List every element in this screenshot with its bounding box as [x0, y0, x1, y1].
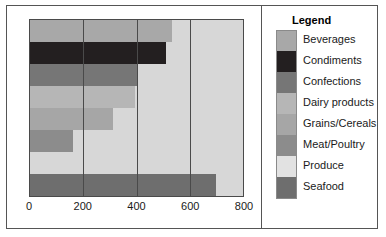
legend-swatch — [276, 114, 297, 135]
bar-meat-poultry — [30, 130, 73, 152]
legend-swatch — [276, 135, 297, 156]
legend-item-grains-cereals[interactable]: Grains/Cereals — [276, 114, 380, 135]
x-tick-label: 400 — [127, 200, 145, 212]
legend-swatch — [276, 93, 297, 114]
bar-row — [30, 86, 243, 108]
legend-swatch — [276, 156, 297, 177]
legend-item-condiments[interactable]: Condiments — [276, 51, 380, 72]
bar-row — [30, 152, 243, 174]
legend-swatch — [276, 51, 297, 72]
legend: Legend BeveragesCondimentsConfectionsDai… — [261, 6, 380, 228]
legend-label: Confections — [303, 75, 361, 87]
legend-item-seafood[interactable]: Seafood — [276, 177, 380, 198]
legend-items: BeveragesCondimentsConfectionsDairy prod… — [276, 30, 380, 198]
bar-grains-cereals — [30, 108, 113, 130]
legend-item-confections[interactable]: Confections — [276, 72, 380, 93]
bar-series — [30, 20, 243, 196]
bar-chart: 0200400600800 — [7, 6, 259, 228]
bar-row — [30, 108, 243, 130]
x-tick-label: 200 — [74, 200, 92, 212]
bar-row — [30, 42, 243, 64]
x-tick-label: 0 — [26, 200, 32, 212]
legend-label: Grains/Cereals — [303, 117, 376, 129]
bar-dairy-products — [30, 86, 135, 108]
legend-title: Legend — [292, 14, 331, 26]
legend-label: Condiments — [303, 54, 362, 66]
legend-label: Dairy products — [303, 96, 374, 108]
bar-row — [30, 20, 243, 42]
legend-swatch — [276, 30, 297, 52]
legend-swatch — [276, 72, 297, 93]
legend-item-beverages[interactable]: Beverages — [276, 30, 380, 51]
chart-frame: 0200400600800 Legend BeveragesCondiments… — [6, 5, 378, 229]
legend-item-meat-poultry[interactable]: Meat/Poultry — [276, 135, 380, 156]
bar-beverages — [30, 20, 172, 42]
bar-row — [30, 174, 243, 196]
legend-label: Produce — [303, 159, 344, 171]
bar-row — [30, 130, 243, 152]
x-axis: 0200400600800 — [29, 196, 244, 224]
plot-area — [29, 19, 244, 197]
legend-item-produce[interactable]: Produce — [276, 156, 380, 177]
legend-label: Seafood — [303, 180, 344, 192]
legend-label: Meat/Poultry — [303, 138, 365, 150]
legend-swatch — [276, 177, 297, 199]
x-tick-label: 600 — [181, 200, 199, 212]
bar-row — [30, 64, 243, 86]
bar-seafood — [30, 174, 216, 196]
legend-label: Beverages — [303, 33, 356, 45]
bar-condiments — [30, 42, 166, 64]
legend-item-dairy-products[interactable]: Dairy products — [276, 93, 380, 114]
x-tick-label: 800 — [235, 200, 253, 212]
bar-confections — [30, 64, 137, 86]
